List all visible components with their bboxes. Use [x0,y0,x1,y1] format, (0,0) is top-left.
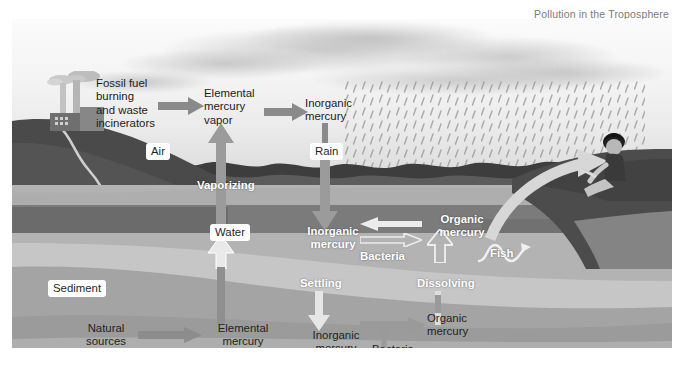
label-vaporizing: Vaporizing [197,179,255,192]
label-elemental-mercury-sediment: Elemental mercury [208,322,278,348]
label-bacteria-sediment: Bacteria [372,343,414,348]
figure-page: Pollution in the Troposphere [0,0,681,365]
arrow-sediment-elemental-up [216,267,226,325]
label-organic-mercury-water: Organic mercury [424,213,500,240]
label-bacteria-water: Bacteria [360,250,405,263]
arrow-vaporizing-up [208,123,234,229]
arrow-inorganic-to-rain [318,123,332,143]
arrow-organic-sediment-up [433,295,443,313]
label-settling: Settling [300,277,342,290]
label-dissolving: Dissolving [417,277,475,290]
label-inorganic-mercury-sediment: Inorganic mercury [302,329,370,348]
zone-label-sediment: Sediment [48,280,106,297]
angler-fishing-icon [582,131,652,211]
label-rain: Rain [310,143,343,160]
label-inorganic-mercury-air: Inorganic mercury [305,97,385,124]
label-fossil-fuel-source: Fossil fuel burning and waste incinerato… [96,77,192,131]
arrow-settling-down [308,291,330,331]
zone-label-air: Air [146,143,170,160]
zone-label-water: Water [210,224,250,241]
label-inorganic-mercury-water: Inorganic mercury [292,225,374,252]
label-organic-mercury-sediment: Organic mercury [427,312,489,339]
label-fish: Fish [490,247,513,260]
label-natural-sources: Natural sources [72,322,140,348]
arrow-natural-to-elemental [138,327,202,343]
arrow-rain-to-water [312,159,338,231]
label-elemental-mercury-vapor: Elemental mercury vapor [204,87,276,127]
mercury-cycle-diagram: Fossil fuel burning and waste incinerato… [12,19,672,348]
